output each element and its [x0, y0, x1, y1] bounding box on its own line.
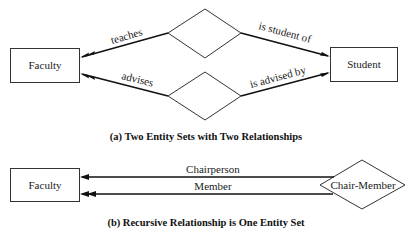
relationship-chair-member: Chair-Member: [320, 160, 405, 209]
entity-label: Faculty: [29, 59, 62, 71]
role-label-is-student-of: is student of: [257, 19, 312, 45]
figure-a: Faculty Student teaches is student of ad…: [11, 9, 398, 143]
arrowhead-icon: [80, 174, 89, 180]
arrowhead-icon: [320, 52, 330, 57]
relationship-diamond-2: [168, 72, 241, 120]
arrowhead-icon: [320, 73, 330, 78]
entity-faculty-b: Faculty: [11, 169, 80, 202]
relationship-label: Chair-Member: [330, 179, 395, 191]
role-label-member: Member: [194, 180, 232, 192]
role-label-chairperson: Chairperson: [186, 163, 240, 175]
entity-label: Student: [347, 58, 381, 70]
entity-label: Faculty: [29, 179, 62, 191]
er-diagram: Faculty Student teaches is student of ad…: [0, 0, 412, 237]
figure-b: Faculty Chair-Member Chairperson Member …: [11, 160, 406, 229]
entity-faculty-a: Faculty: [11, 49, 80, 83]
role-label-teaches: teaches: [109, 25, 143, 45]
relationship-diamond-1: [168, 9, 241, 58]
caption-a: (a) Two Entity Sets with Two Relationshi…: [110, 131, 302, 143]
caption-b: (b) Recursive Relationship is One Entity…: [107, 217, 305, 229]
entity-student: Student: [331, 48, 398, 82]
